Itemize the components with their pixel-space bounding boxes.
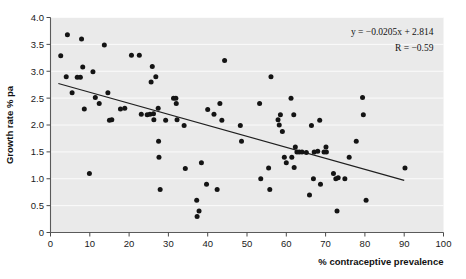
data-point [183,166,188,171]
data-point [90,69,95,74]
data-point [150,64,155,69]
data-point [291,112,296,117]
data-point [175,117,180,122]
data-point [277,123,282,128]
data-point [82,106,87,111]
data-point [342,176,347,181]
y-tick-label: 1.0 [31,173,44,184]
data-point [197,209,202,214]
y-tick-label: 4.0 [31,12,44,23]
data-point [239,139,244,144]
data-point [137,53,142,58]
data-point [118,106,123,111]
data-point [194,198,199,203]
data-point [219,118,224,123]
data-point [64,74,69,79]
data-point [309,123,314,128]
data-point [335,209,340,214]
data-point [79,37,84,42]
y-tick-label: 0 [39,227,44,238]
data-point [292,165,297,170]
data-point [284,160,289,165]
data-point [217,101,222,106]
data-point [315,149,320,154]
data-point [336,175,341,180]
data-point [364,198,369,203]
data-point [139,112,144,117]
data-point [304,150,309,155]
data-point [354,139,359,144]
data-point [280,129,285,134]
y-tick-label: 1.5 [31,146,44,157]
y-axis-label: Growth rate % pa [4,85,15,164]
data-point [205,107,210,112]
data-point [361,112,366,117]
data-point [195,214,200,219]
data-point [182,123,187,128]
data-point [199,160,204,165]
x-tick-label: 10 [85,238,96,249]
y-tick-label: 3.5 [31,39,44,50]
data-point [109,117,114,122]
data-point [156,139,161,144]
x-tick-label: 70 [320,238,331,249]
data-point [278,112,283,117]
data-point [215,187,220,192]
data-point [163,118,168,123]
data-point [80,64,85,69]
data-point [360,95,365,100]
data-point [318,182,323,187]
data-point [311,176,316,181]
data-point [282,155,287,160]
x-tick-label: 100 [436,238,452,249]
data-point [257,101,262,106]
data-point [204,182,209,187]
data-point [324,149,329,154]
data-point [70,90,75,95]
data-point [307,192,312,197]
data-point [267,187,272,192]
data-point [174,101,179,106]
x-tick-label: 40 [202,238,213,249]
data-point [300,149,305,154]
data-point [158,187,163,192]
data-point [122,106,127,111]
data-point [156,106,161,111]
data-point [102,42,107,47]
data-point [78,75,83,80]
data-point [65,32,70,37]
data-point [266,166,271,171]
data-point [153,74,158,79]
chart-container: 0102030405060708090100 00.51.01.52.02.53… [0,0,466,279]
data-point [105,90,110,95]
data-point [222,58,227,63]
y-tick-label: 2.5 [31,93,44,104]
data-point [149,80,154,85]
data-point [317,118,322,123]
data-point [173,96,178,101]
data-point [289,96,294,101]
data-point [97,101,102,106]
data-point [151,117,156,122]
x-tick-label: 80 [360,238,371,249]
data-point [58,53,63,58]
data-point [93,95,98,100]
x-tick-label: 50 [242,238,253,249]
data-point [129,53,134,58]
x-tick-label: 0 [48,238,53,249]
y-tick-label: 3.0 [31,66,44,77]
data-point [402,166,407,171]
data-point [289,155,294,160]
data-point [347,155,352,160]
x-tick-label: 20 [124,238,135,249]
data-point [238,123,243,128]
x-tick-label: 30 [163,238,174,249]
scatter-plot: 0102030405060708090100 00.51.01.52.02.53… [0,0,466,279]
data-point [323,145,328,150]
x-axis-label: % contraceptive prevalence [318,256,443,267]
data-point [156,155,161,160]
y-tick-label: 0.5 [31,200,44,211]
data-point [293,145,298,150]
y-tick-label: 2.0 [31,119,44,130]
x-tick-label: 90 [399,238,410,249]
